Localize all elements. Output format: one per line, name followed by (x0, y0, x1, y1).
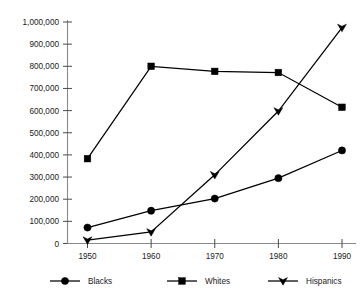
x-axis-tick-labels: 19501960197019801990 (78, 252, 351, 261)
series-blacks (84, 147, 346, 231)
y-tick-label: 0 (54, 240, 59, 249)
chart-canvas: 0100,000200,000300,000400,000500,000600,… (0, 0, 362, 299)
legend-label: Blacks (88, 277, 112, 286)
x-tick-label: 1990 (333, 252, 352, 261)
y-tick-label: 1,000,000 (23, 18, 60, 27)
series-line (88, 66, 343, 158)
y-tick-label: 300,000 (29, 173, 59, 182)
y-tick-label: 600,000 (29, 107, 59, 116)
data-point-marker (211, 68, 218, 75)
legend-label: Whites (205, 277, 230, 286)
y-tick-label: 200,000 (29, 195, 59, 204)
x-tick-label: 1980 (269, 252, 288, 261)
series-line (88, 28, 343, 241)
series-whites (84, 63, 345, 162)
y-axis: 0100,000200,000300,000400,000500,000600,… (23, 18, 72, 249)
data-point-marker (339, 104, 346, 111)
chart-legend: BlacksWhitesHispanics (50, 277, 342, 286)
y-tick-label: 100,000 (29, 217, 59, 226)
series-hispanics (83, 24, 346, 244)
data-point-marker (275, 69, 282, 76)
x-tick-label: 1950 (78, 252, 97, 261)
data-point-marker (84, 224, 91, 231)
y-axis-tick-labels: 0100,000200,000300,000400,000500,000600,… (23, 18, 60, 249)
data-point-marker (275, 175, 282, 182)
square-marker-icon (179, 278, 186, 285)
y-tick-label: 700,000 (29, 84, 59, 93)
legend-item-hispanics: Hispanics (268, 277, 342, 286)
series-line (88, 150, 343, 227)
legend-item-blacks: Blacks (50, 277, 112, 286)
legend-label: Hispanics (306, 277, 342, 286)
y-tick-label: 400,000 (29, 151, 59, 160)
y-tick-label: 800,000 (29, 62, 59, 71)
x-tick-label: 1960 (142, 252, 161, 261)
data-point-marker (211, 195, 218, 202)
line-chart: 0100,000200,000300,000400,000500,000600,… (0, 0, 362, 299)
data-point-marker (148, 63, 155, 70)
circle-marker-icon (61, 277, 68, 284)
data-point-marker (84, 155, 91, 162)
x-axis: 19501960197019801990 (68, 239, 357, 261)
y-tick-label: 500,000 (29, 129, 59, 138)
data-point-marker (148, 207, 155, 214)
data-series-group (83, 24, 346, 244)
legend-item-whites: Whites (167, 277, 230, 286)
x-tick-label: 1970 (206, 252, 225, 261)
y-tick-label: 900,000 (29, 40, 59, 49)
data-point-marker (338, 147, 345, 154)
